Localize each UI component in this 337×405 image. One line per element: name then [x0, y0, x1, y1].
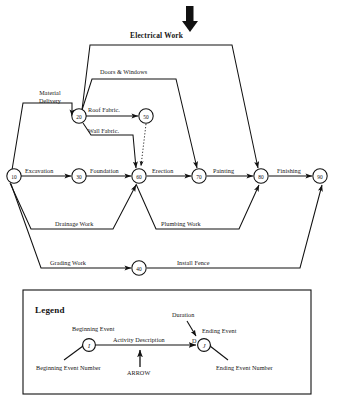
legend-label-duration-symbol: D — [192, 337, 197, 344]
legend-label-ending-event: Ending Event — [202, 327, 236, 334]
event-node-label-70: 70 — [196, 174, 202, 180]
event-node-label-30: 30 — [76, 174, 82, 180]
activity-label-doors-and-windows: Doors & Windows — [100, 68, 147, 75]
network-diagram-page: 10 20 30 40 50 60 70 80 90 — [0, 0, 337, 405]
legend-label-beginning-event: Beginning Event — [72, 325, 115, 332]
activity-label-finishing: Finishing — [277, 167, 301, 174]
activity-label-plumbing-work: Plumbing Work — [161, 220, 201, 227]
activity-label-install-fence: Install Fence — [177, 259, 209, 266]
event-node-label-90: 90 — [317, 174, 323, 180]
activity-label-erection: Erection — [152, 167, 173, 174]
activity-label-material-delivery-line1: Material — [28, 89, 72, 96]
legend-label-beginning-event-number: Beginning Event Number — [36, 364, 101, 371]
activity-label-electrical-work: Electrical Work — [130, 32, 183, 39]
event-node-label-20: 20 — [76, 114, 82, 120]
network-diagram-canvas: 10 20 30 40 50 60 70 80 90 — [0, 0, 337, 405]
activity-label-excavation: Excavation — [25, 167, 53, 174]
activity-label-painting: Painting — [213, 167, 234, 174]
activity-label-wall-fabric: Wall Fabric. — [88, 127, 119, 134]
legend-label-ending-event-number: Ending Event Number — [216, 364, 273, 371]
event-nodes: 10 20 30 40 50 60 70 80 90 — [7, 109, 327, 275]
activity-label-grading-work: Grading Work — [50, 259, 86, 266]
event-node-label-60: 60 — [136, 174, 142, 180]
event-node-label-80: 80 — [258, 174, 264, 180]
bold-down-arrow-icon — [182, 6, 198, 32]
legend-box: I J — [23, 290, 311, 394]
legend-label-activity-description: Activity Description — [113, 336, 165, 343]
edge-doors-and-windows — [82, 79, 197, 168]
edge-dummy-50-60 — [141, 124, 146, 166]
activity-label-material-delivery-line2: Delivery — [28, 97, 72, 104]
event-node-label-50: 50 — [143, 114, 149, 120]
legend-label-duration: Duration — [172, 311, 194, 318]
activity-label-foundation: Foundation — [90, 167, 119, 174]
activity-label-drainage-work: Drainage Work — [55, 220, 93, 227]
event-node-label-10: 10 — [11, 174, 17, 180]
legend-title: Legend — [35, 307, 65, 314]
event-node-label-40: 40 — [136, 266, 142, 272]
legend-label-arrow: ARROW — [127, 369, 150, 376]
activity-label-roof-fabric: Roof Fabric. — [88, 106, 120, 113]
edge-material-delivery — [12, 103, 72, 170]
legend-node-j-label: J — [203, 342, 206, 349]
